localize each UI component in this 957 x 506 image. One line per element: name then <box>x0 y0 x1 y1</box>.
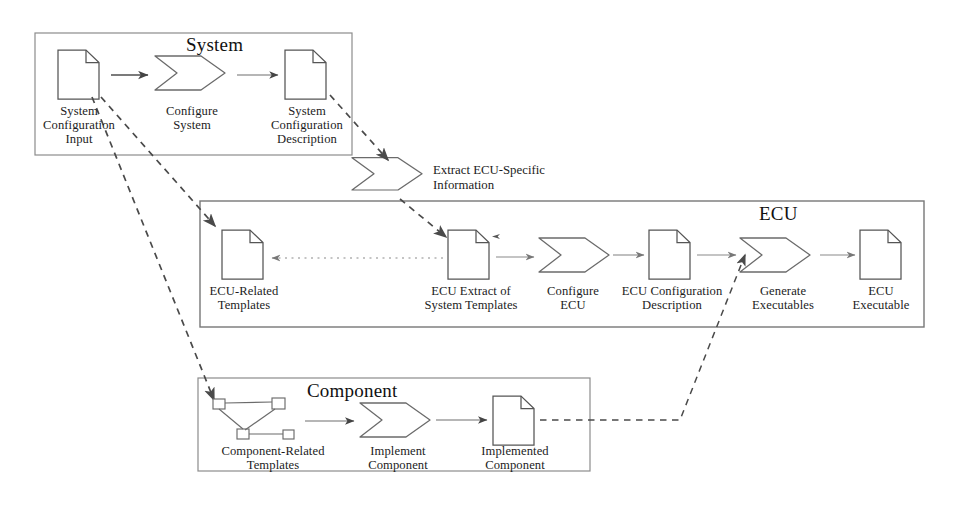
node-label-implement-component: Implement Component <box>350 444 446 472</box>
document-icon-ecu-configuration-description <box>649 230 690 279</box>
network-graph-icon-component-related-templates <box>213 398 294 439</box>
node-label-implemented-component: Implemented Component <box>455 444 575 472</box>
chevron-process-icon-configure-system <box>155 56 225 90</box>
node-label-ecu-related-templates: ECU-Related Templates <box>183 284 305 312</box>
arrowhead-marker-ecu-extract <box>492 234 500 239</box>
node-label-system-configuration-description: System Configuration Description <box>246 104 368 146</box>
diagram-vector-layer <box>0 0 957 506</box>
lane-title-system: System <box>186 34 243 56</box>
chevron-process-icon-configure-ecu <box>539 238 609 272</box>
chevron-process-icon-implement-component <box>360 403 430 437</box>
document-icon-system-configuration-input <box>58 50 99 99</box>
edge-implemented-component-to-generate-executables <box>540 255 745 420</box>
diagram-canvas: System ECU Component System Configuratio… <box>0 0 957 506</box>
document-icon-implemented-component <box>493 396 534 445</box>
document-icon-ecu-executable <box>860 230 901 279</box>
chevron-process-icon-generate-executables <box>740 238 810 272</box>
document-icon-ecu-extract-of-system-templates <box>448 230 489 279</box>
node-label-configure-system: Configure System <box>136 104 248 132</box>
node-label-generate-executables: Generate Executables <box>735 284 831 312</box>
lane-title-ecu: ECU <box>759 203 798 225</box>
node-label-component-related-templates: Component-Related Templates <box>199 444 347 472</box>
node-label-system-configuration-input: System Configuration Input <box>19 104 139 146</box>
document-icon-ecu-related-templates <box>222 230 263 279</box>
document-icon-system-configuration-description <box>285 50 326 99</box>
node-label-ecu-extract-of-system-templates: ECU Extract of System Templates <box>400 284 542 312</box>
node-label-ecu-executable: ECU Executable <box>823 284 939 312</box>
chevron-process-icon-extract-ecu-specific-information <box>352 158 422 190</box>
lane-title-component: Component <box>307 380 397 402</box>
node-label-ecu-configuration-description: ECU Configuration Description <box>602 284 742 312</box>
node-label-extract-ecu-specific-information: Extract ECU-Specific Information <box>433 163 643 194</box>
node-label-configure-ecu: Configure ECU <box>535 284 611 312</box>
edge-extract-to-ecu-extract <box>400 199 446 237</box>
